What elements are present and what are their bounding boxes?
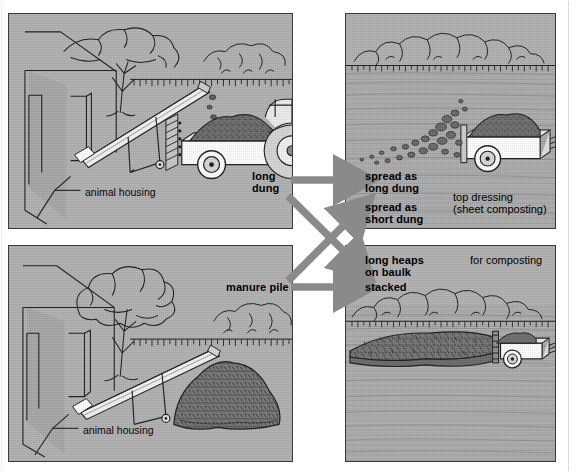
flow-label-long-heaps-line2: on baulk: [365, 266, 411, 278]
flow-label-long-dung: longdung: [252, 170, 279, 195]
flow-label-spread-short-dung: spread asshort dung: [365, 201, 423, 226]
caption-animal-housing-bottom: animal housing: [83, 424, 154, 436]
flow-label-spread-long-dung: spread aslong dung: [365, 170, 419, 195]
flow-label-long-dung-line1: long: [252, 170, 276, 182]
figure-canvas: animal housing: [0, 0, 577, 474]
flow-label-long-dung-line2: dung: [252, 182, 279, 194]
note-top-dressing-line2: (sheet composting): [453, 203, 547, 215]
panel-loading-long-dung: animal housing: [8, 13, 293, 229]
caption-animal-housing-top: animal housing: [85, 186, 156, 198]
flow-label-long-heaps-line1: long heaps: [365, 254, 424, 266]
flow-label-manure-pile: manure pile: [226, 281, 289, 293]
flow-label-spread-long-dung-line1: spread as: [365, 170, 417, 182]
flow-label-manure-pile-line1: manure pile: [226, 281, 289, 293]
note-top-dressing-line1: top dressing: [453, 191, 513, 203]
flow-label-spread-long-dung-line2: long dung: [365, 182, 419, 194]
flow-label-spread-short-dung-line2: short dung: [365, 213, 423, 225]
flow-label-long-heaps: long heapson baulk: [365, 254, 424, 279]
flow-label-stacked-line1: stacked: [365, 281, 407, 293]
flow-label-spread-short-dung-line1: spread as: [365, 201, 417, 213]
flow-label-stacked: stacked: [365, 281, 407, 293]
note-for-composting: for composting: [470, 254, 542, 266]
note-top-dressing: top dressing(sheet composting): [453, 191, 547, 216]
panel-manure-pile-at-housing: animal housing: [8, 245, 293, 462]
